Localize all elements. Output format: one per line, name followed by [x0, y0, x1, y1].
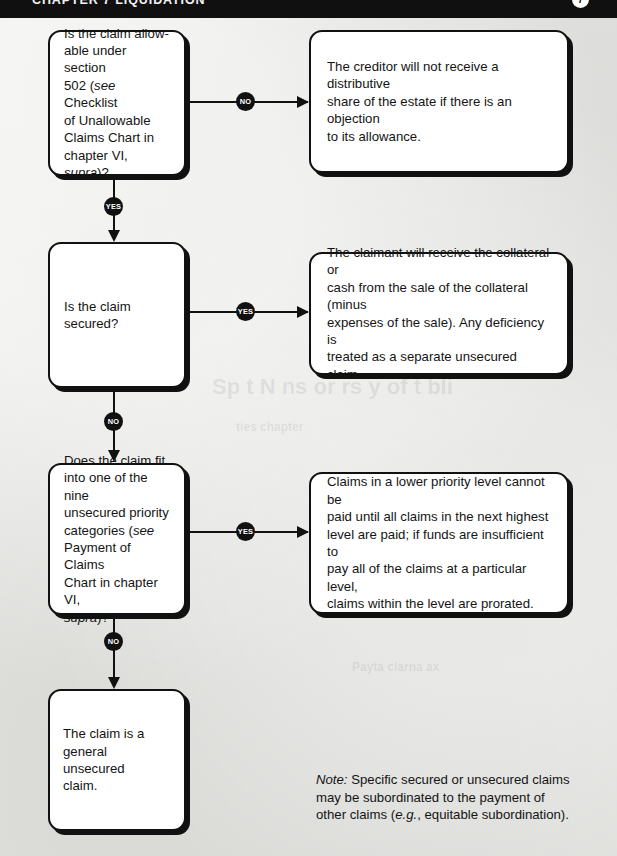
footnote-text: Specific secured or unsecured claims may…: [316, 772, 570, 822]
chapter-header-bar: CHAPTER 7 LIQUIDATION 7: [0, 0, 617, 18]
edge-badge-yes-q1-q2: YES: [104, 197, 123, 216]
decision-node-priority-category-text: Does the claim fit into one of the nine …: [50, 452, 184, 626]
outcome-node-no-distributive-share[interactable]: The creditor will not receive a distribu…: [309, 30, 569, 173]
ghost-text: Payta clarna ax: [352, 660, 439, 674]
outcome-node-priority-level-order[interactable]: Claims in a lower priority level cannot …: [309, 472, 569, 614]
decision-node-claim-allowable[interactable]: Is the claim allow- able under section 5…: [48, 30, 186, 176]
edge-badge-yes-q3-a3: YES: [236, 522, 255, 541]
decision-node-claim-secured[interactable]: Is the claim secured?: [48, 242, 186, 388]
decision-node-claim-allowable-text: Is the claim allow- able under section 5…: [50, 25, 184, 182]
ghost-text: ties chapter: [236, 420, 303, 434]
decision-node-claim-secured-text: Is the claim secured?: [50, 298, 184, 333]
edge-arrowhead-q1-a1: [297, 96, 309, 108]
outcome-node-collateral-proceeds-text: The claimant will receive the collateral…: [311, 244, 567, 383]
terminal-node-general-unsecured-claim[interactable]: The claim is a general unsecured claim.: [48, 689, 186, 831]
page-number-badge: 7: [572, 0, 589, 8]
edge-arrowhead-q1-q2: [108, 230, 120, 242]
chapter-header-title: CHAPTER 7 LIQUIDATION: [32, 0, 206, 7]
outcome-node-priority-level-order-text: Claims in a lower priority level cannot …: [311, 473, 567, 612]
terminal-node-general-unsecured-claim-text: The claim is a general unsecured claim.: [50, 725, 184, 795]
edge-arrowhead-q3-q4: [108, 677, 120, 689]
edge-badge-no-q1-a1: NO: [236, 92, 255, 111]
edge-badge-no-q2-q3: NO: [104, 412, 123, 431]
footnote-label: Note:: [316, 772, 348, 787]
edge-arrowhead-q2-a2: [297, 306, 309, 318]
outcome-node-collateral-proceeds[interactable]: The claimant will receive the collateral…: [309, 252, 569, 375]
edge-arrowhead-q3-a3: [297, 526, 309, 538]
footnote-subordination: Note: Specific secured or unsecured clai…: [316, 771, 598, 824]
outcome-node-no-distributive-share-text: The creditor will not receive a distribu…: [311, 58, 567, 145]
flowchart-page: Sp t N ns or rs y of t bli ties chapter …: [0, 0, 617, 856]
decision-node-priority-category[interactable]: Does the claim fit into one of the nine …: [48, 463, 186, 615]
edge-badge-yes-q2-a2: YES: [236, 302, 255, 321]
edge-badge-no-q3-q4: NO: [104, 632, 123, 651]
